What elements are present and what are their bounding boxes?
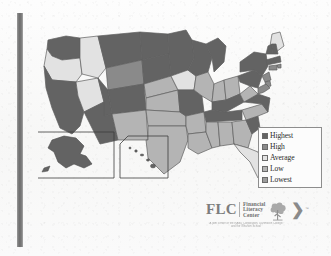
- legend-label-low: Low: [270, 164, 284, 173]
- legend-swatch-high: [262, 144, 268, 150]
- state-AR: [186, 112, 206, 134]
- state-CT: [269, 65, 277, 70]
- state-NM: [112, 110, 148, 140]
- slide-canvas: Highest High Average Low Lowest FLC Fina…: [0, 0, 331, 256]
- legend-swatch-lowest: [262, 177, 268, 183]
- left-accent-bar: [17, 13, 23, 247]
- legend-item-highest[interactable]: Highest: [262, 130, 318, 141]
- trademark-symbol: ™: [305, 207, 309, 211]
- state-RI: [277, 64, 281, 68]
- legend-label-high: High: [270, 142, 285, 151]
- map-legend: Highest High Average Low Lowest: [258, 127, 322, 188]
- alaska-islands: [42, 166, 50, 172]
- legend-label-lowest: Lowest: [270, 175, 292, 184]
- legend-label-highest: Highest: [270, 131, 293, 140]
- legend-label-average: Average: [270, 153, 294, 162]
- state-IN: [212, 80, 226, 102]
- state-AL: [218, 122, 234, 146]
- chevron-right-icon: ❯: [291, 202, 304, 218]
- logo-word-center: Center: [243, 213, 265, 218]
- legend-item-high[interactable]: High: [262, 141, 318, 152]
- legend-swatch-average: [262, 155, 268, 161]
- logo-wordmark: Financial Literacy Center: [243, 202, 265, 218]
- legend-swatch-highest: [262, 133, 268, 139]
- state-AK: [48, 136, 92, 168]
- state-MA: [266, 56, 281, 65]
- logo-divider: [239, 202, 240, 217]
- legend-item-lowest[interactable]: Lowest: [262, 174, 318, 185]
- legend-item-low[interactable]: Low: [262, 163, 318, 174]
- us-choropleth-map: [36, 22, 288, 202]
- logo-acronym: FLC: [206, 202, 237, 217]
- legend-item-average[interactable]: Average: [262, 152, 318, 163]
- legend-swatch-low: [262, 166, 268, 172]
- map-svg: [36, 22, 288, 202]
- state-TN: [204, 110, 242, 122]
- logo-tagline: A joint center of the RAND Corporation, …: [208, 222, 284, 229]
